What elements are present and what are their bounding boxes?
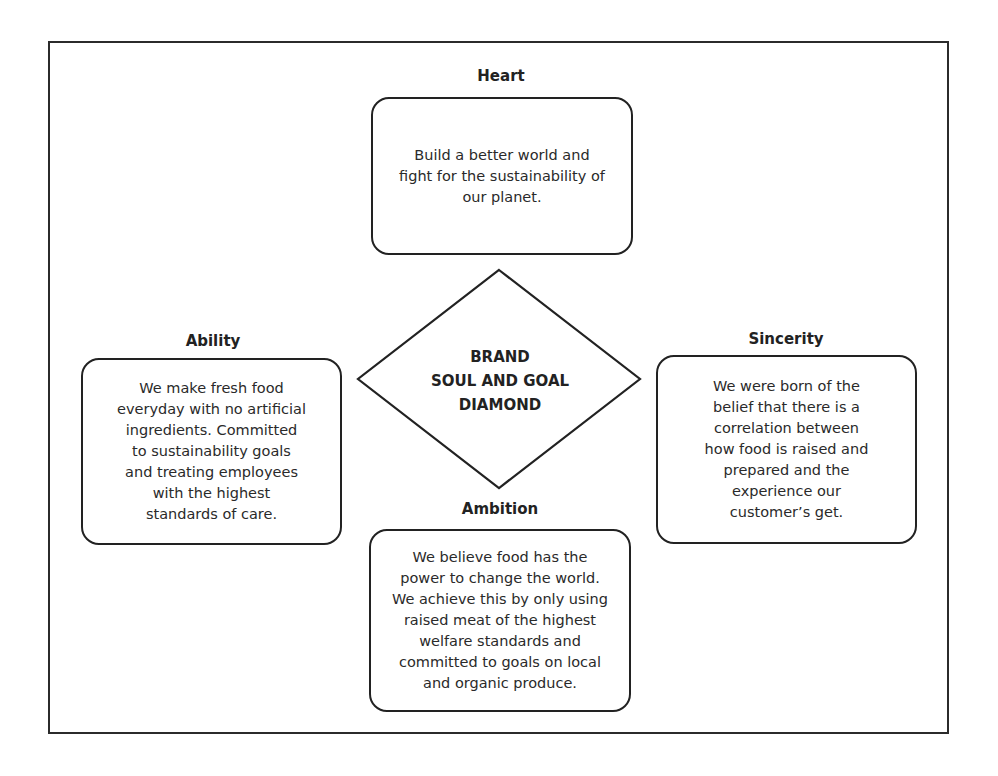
ability-box: We make fresh food everyday with no arti… — [81, 358, 342, 545]
heart-label: Heart — [477, 67, 524, 85]
sincerity-label: Sincerity — [748, 330, 823, 348]
ambition-box: We believe food has the power to change … — [369, 529, 631, 712]
heart-box: Build a better world and fight for the s… — [371, 97, 633, 255]
sincerity-box: We were born of the belief that there is… — [656, 355, 917, 544]
center-title: BRAND SOUL AND GOAL DIAMOND — [400, 345, 600, 417]
ability-text: We make fresh food everyday with no arti… — [117, 378, 306, 525]
ambition-text: We believe food has the power to change … — [392, 547, 608, 694]
sincerity-text: We were born of the belief that there is… — [705, 376, 869, 523]
ambition-label: Ambition — [462, 500, 538, 518]
ability-label: Ability — [186, 332, 241, 350]
heart-text: Build a better world and fight for the s… — [399, 145, 605, 208]
